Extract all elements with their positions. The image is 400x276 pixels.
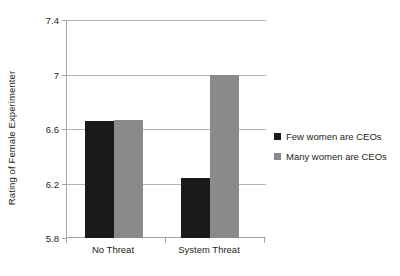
bar-no-threat-few-women [85,121,114,238]
y-tick-label-6-2: 6.2 [29,178,59,189]
y-tick-label-5-8: 5.8 [29,233,59,244]
legend-swatch-icon [274,153,281,160]
x-axis-label-no-threat: No Threat [92,244,134,255]
x-axis-label-system-threat: System Threat [178,244,240,255]
bar-system-threat-many-women [210,75,239,238]
chart-legend: Few women are CEOs Many women are CEOs [274,131,387,162]
y-tick-label-7: 7 [29,69,59,80]
bar-no-threat-many-women [114,120,143,238]
legend-item-few-women-are-ceos: Few women are CEOs [274,131,387,142]
x-axis-tick [66,238,67,243]
gridline-7-4 [67,20,266,21]
bar-chart-figure: Rating of Female Experimenter 7.4 7 6.6 … [0,0,400,276]
x-axis-tick [264,238,265,243]
legend-swatch-icon [274,133,281,140]
legend-label: Few women are CEOs [286,131,382,142]
y-axis-title: Rating of Female Experimenter [0,0,22,276]
y-tick-label-6-6: 6.6 [29,124,59,135]
legend-label: Many women are CEOs [286,151,387,162]
plot-area [66,20,265,238]
y-tick-label-7-4: 7.4 [29,15,59,26]
bar-system-threat-few-women [181,178,210,238]
x-axis-tick [165,238,166,243]
legend-item-many-women-are-ceos: Many women are CEOs [274,151,387,162]
